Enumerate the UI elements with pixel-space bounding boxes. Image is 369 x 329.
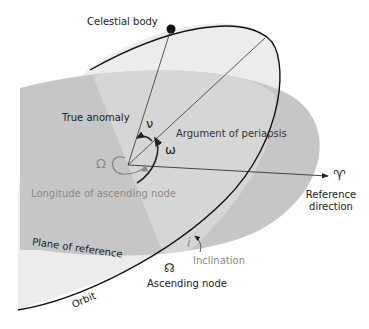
longitude-of-ascending-node-label: Longitude of ascending node: [31, 188, 176, 200]
celestial-body-label: Celestial body: [87, 16, 158, 28]
inclination-label: Inclination: [193, 255, 245, 267]
reference-direction-label: Reference direction: [300, 189, 362, 212]
nu-symbol: ν: [146, 117, 153, 130]
inclination-symbol: i: [187, 237, 190, 249]
capital-omega-symbol: Ω: [96, 157, 106, 170]
ascending-node-label: Ascending node: [147, 278, 227, 290]
omega-symbol: ω: [165, 143, 176, 156]
aries-symbol: ♈: [333, 168, 346, 182]
reference-direction-line1: Reference: [300, 189, 362, 201]
argument-of-periapsis-label: Argument of periapsis: [176, 128, 287, 140]
reference-direction-line2: direction: [300, 201, 362, 213]
true-anomaly-label: True anomaly: [62, 112, 130, 124]
ascending-node-symbol: ☊: [164, 262, 175, 274]
